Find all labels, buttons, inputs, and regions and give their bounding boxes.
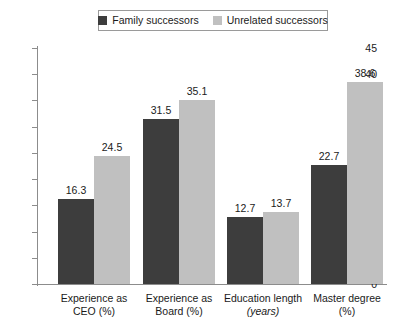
bar-value-label: 12.7 bbox=[235, 203, 255, 214]
y-axis-tick bbox=[32, 100, 37, 101]
bar-value-label: 16.3 bbox=[66, 185, 86, 196]
bar-value-label: 22.7 bbox=[319, 151, 339, 162]
category-label-line-2: CEO (%) bbox=[61, 305, 128, 318]
x-axis-category-label: Experience asCEO (%) bbox=[61, 292, 128, 318]
legend-entry-unrelated-successors: Unrelated successors bbox=[213, 15, 328, 26]
y-axis-tick bbox=[32, 232, 37, 233]
category-label-line-1: Experience as bbox=[146, 292, 213, 305]
y-axis-tick bbox=[32, 258, 37, 259]
y-axis-tick-label: 45 bbox=[353, 43, 377, 54]
bar bbox=[227, 217, 263, 284]
bar bbox=[347, 82, 383, 284]
x-axis-category-label: Master degree(%) bbox=[313, 292, 381, 318]
legend-label-family-successors: Family successors bbox=[112, 15, 198, 26]
bar-value-label: 31.5 bbox=[151, 105, 171, 116]
bar bbox=[58, 199, 94, 284]
bar bbox=[94, 156, 130, 284]
category-label-line-1: Experience as bbox=[61, 292, 128, 305]
bar-value-label: 24.5 bbox=[102, 142, 122, 153]
bar bbox=[263, 212, 299, 284]
legend-entry-family-successors: Family successors bbox=[98, 15, 198, 26]
category-label-line-1: Education length bbox=[224, 292, 302, 305]
category-label-line-2: (%) bbox=[313, 305, 381, 318]
plot-area: 05101520253035404516.324.531.535.112.713… bbox=[37, 48, 387, 284]
legend-label-unrelated-successors: Unrelated successors bbox=[227, 15, 328, 26]
bar-value-label: 38.6 bbox=[355, 68, 375, 79]
x-axis-category-label: Experience asBoard (%) bbox=[146, 292, 213, 318]
y-axis-tick bbox=[32, 48, 37, 49]
bar bbox=[311, 165, 347, 284]
y-axis-tick bbox=[32, 179, 37, 180]
category-label-line-2: Board (%) bbox=[146, 305, 213, 318]
legend-swatch-unrelated-successors bbox=[213, 16, 222, 25]
bar-value-label: 35.1 bbox=[187, 86, 207, 97]
y-axis-tick bbox=[32, 127, 37, 128]
bar bbox=[143, 119, 179, 284]
chart-legend: Family successors Unrelated successors bbox=[98, 10, 328, 31]
x-axis-category-label: Education length(years) bbox=[224, 292, 302, 318]
x-axis-line bbox=[37, 284, 387, 285]
y-axis-tick bbox=[32, 284, 37, 285]
legend-swatch-family-successors bbox=[98, 16, 107, 25]
bar bbox=[179, 100, 215, 284]
y-axis-tick bbox=[32, 153, 37, 154]
y-axis-tick bbox=[32, 205, 37, 206]
category-label-line-2: (years) bbox=[224, 305, 302, 318]
bar-value-label: 13.7 bbox=[271, 198, 291, 209]
bar-chart: Family successors Unrelated successors 0… bbox=[0, 0, 407, 333]
category-label-line-1: Master degree bbox=[313, 292, 381, 305]
y-axis-tick bbox=[32, 74, 37, 75]
